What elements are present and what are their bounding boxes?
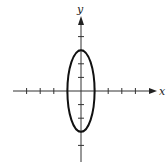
ellipse-diagram: x y xyxy=(0,0,168,166)
x-axis-label: x xyxy=(159,85,166,98)
y-axis-label: y xyxy=(76,3,84,16)
x-axis-arrow-icon xyxy=(149,88,157,94)
y-axis-arrow-icon xyxy=(78,16,84,25)
axes xyxy=(13,22,152,162)
